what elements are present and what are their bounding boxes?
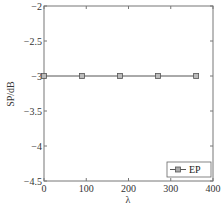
y-tick-label: −2 xyxy=(31,1,42,12)
x-tick-label: 400 xyxy=(206,183,221,194)
x-tick-label: 300 xyxy=(163,183,178,194)
y-tick-label: −4 xyxy=(31,141,42,152)
y-tick-label: −2.5 xyxy=(24,36,42,47)
x-tick-label: 100 xyxy=(79,183,94,194)
data-point-marker xyxy=(80,74,85,79)
plot-area xyxy=(44,6,213,181)
y-tick-label: −3 xyxy=(31,71,42,82)
data-point-marker xyxy=(194,74,199,79)
legend-label: EP xyxy=(189,164,201,175)
x-axis-label: λ xyxy=(126,194,131,205)
data-point-marker xyxy=(156,74,161,79)
y-axis-label: SP/dB xyxy=(5,81,16,107)
x-tick-label: 0 xyxy=(42,183,47,194)
data-point-marker xyxy=(42,74,47,79)
chart: 0100200300400 −2−2.5−3−3.5−4−4.5 λ SP/dB… xyxy=(0,0,224,209)
y-tick-label: −3.5 xyxy=(24,106,42,117)
data-point-marker xyxy=(118,74,123,79)
legend: EP xyxy=(167,162,211,177)
legend-marker xyxy=(176,167,181,172)
y-tick-label: −4.5 xyxy=(24,176,42,187)
x-tick-label: 200 xyxy=(121,183,136,194)
